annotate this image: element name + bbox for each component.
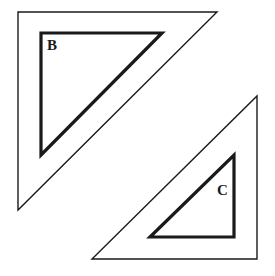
triangle-label-c: C xyxy=(217,183,228,198)
figure-svg xyxy=(0,0,275,276)
triangle-label-b: B xyxy=(47,38,57,53)
geometry-figure: B C xyxy=(0,0,275,276)
inner-triangle-b xyxy=(41,33,162,155)
outer-triangle-c xyxy=(92,96,257,259)
